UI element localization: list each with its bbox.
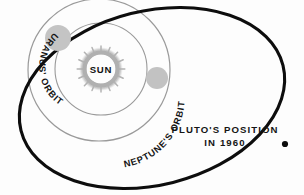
pluto-position-line1: PLUTO'S POSITION: [171, 124, 278, 135]
pluto-position-line2: IN 1960: [204, 137, 245, 148]
pluto-marker: [282, 141, 288, 147]
neptune-marker: [146, 67, 168, 89]
diagram-canvas: SUN URANUS' ORBIT NEPTUNE'S ORBIT PLUTO'…: [0, 0, 304, 195]
sun-label: SUN: [90, 64, 113, 75]
pluto-orbit-diagram: SUN URANUS' ORBIT NEPTUNE'S ORBIT PLUTO'…: [0, 0, 304, 195]
sun-group: SUN: [77, 46, 125, 92]
